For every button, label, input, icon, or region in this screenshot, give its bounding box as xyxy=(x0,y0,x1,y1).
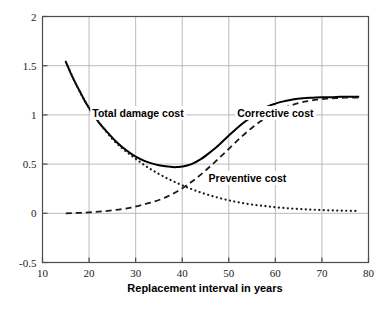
annotation-corrective-cost: Corrective cost xyxy=(237,107,314,119)
y-tick-label: 0.5 xyxy=(23,158,37,170)
annotation-preventive-cost: Preventive cost xyxy=(209,172,287,184)
x-tick-label: 70 xyxy=(316,267,328,279)
x-tick-label: 10 xyxy=(37,267,49,279)
x-tick-label: 40 xyxy=(177,267,189,279)
cost-vs-replacement-interval-chart: 1020304050607080-0.500.511.52 Total dama… xyxy=(0,0,387,313)
x-tick-label: 50 xyxy=(223,267,235,279)
x-tick-label: 60 xyxy=(270,267,282,279)
y-tick-label: 1 xyxy=(31,109,37,121)
y-tick-label: 2 xyxy=(31,11,37,23)
x-tick-label: 20 xyxy=(84,267,96,279)
x-tick-label: 30 xyxy=(130,267,142,279)
chart-figure: 1020304050607080-0.500.511.52 Total dama… xyxy=(0,0,387,313)
y-tick-label: 1.5 xyxy=(23,60,37,72)
y-tick-label: -0.5 xyxy=(19,257,37,269)
x-tick-label: 80 xyxy=(363,267,375,279)
annotation-total-damage-cost: Total damage cost xyxy=(92,107,184,119)
y-tick-label: 0 xyxy=(31,207,37,219)
chart-background xyxy=(0,0,387,313)
x-axis-title: Replacement interval in years xyxy=(127,282,282,294)
